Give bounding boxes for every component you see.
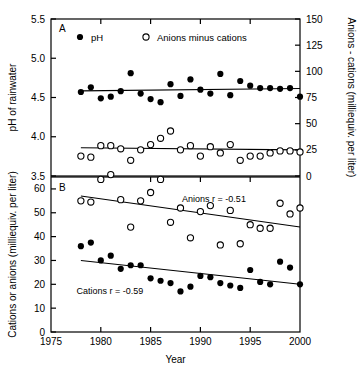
- anions-minus-cations-point: [138, 147, 144, 153]
- panel-a-y2tick-label: 0: [306, 171, 312, 182]
- panel-b-ytick-label: 30: [34, 255, 46, 266]
- cations-point: [227, 282, 233, 288]
- cations-point: [297, 281, 303, 287]
- anions-minus-cations-point: [217, 150, 223, 156]
- ph-point: [277, 86, 283, 92]
- anions-point: [148, 189, 154, 195]
- panel-a-y2tick-label: 75: [306, 92, 318, 103]
- anions-minus-cations-point: [108, 143, 114, 149]
- ph-point: [267, 85, 273, 91]
- ph-point: [88, 84, 94, 90]
- cations-point: [118, 266, 124, 272]
- anions-minus-cations-point: [128, 157, 134, 163]
- cations-point: [138, 262, 144, 268]
- anions-point: [227, 207, 233, 213]
- anions-point: [217, 242, 223, 248]
- anions-correlation-annotation: Anions r = -0.51: [182, 194, 246, 204]
- anions-point: [118, 197, 124, 203]
- ph-point: [108, 94, 114, 100]
- cations-trend-line: [81, 260, 300, 284]
- ph-point: [118, 88, 124, 94]
- anions-minus-cations-point: [257, 153, 263, 159]
- cations-point: [167, 280, 173, 286]
- panel-a-y2tick-label: 100: [306, 66, 323, 77]
- anions-minus-cations-point: [148, 142, 154, 148]
- panel-b-xtick-label: 1985: [139, 336, 162, 347]
- ph-point: [237, 78, 243, 84]
- panel-b-xtick-label: 1980: [90, 336, 113, 347]
- ph-point: [257, 85, 263, 91]
- anions-point: [187, 235, 193, 241]
- anions-minus-cations-point: [297, 149, 303, 155]
- ph-point: [177, 93, 183, 99]
- anions-minus-cations-point: [118, 146, 124, 152]
- cations-point: [277, 259, 283, 265]
- anions-minus-cations-point: [98, 143, 104, 149]
- panel-a-ytick-label: 5.5: [31, 14, 45, 25]
- anions-point: [128, 224, 134, 230]
- cations-point: [98, 257, 104, 263]
- panel-a-frame: [51, 19, 300, 176]
- cations-point: [108, 253, 114, 259]
- panel-b-ytick-label: 10: [34, 303, 46, 314]
- cations-point: [287, 265, 293, 271]
- panel-a-y2tick-label: 150: [306, 14, 323, 25]
- cations-point: [197, 273, 203, 279]
- panel-a-y2tick-label: 50: [306, 118, 318, 129]
- panel-a-ytick-label: 4.0: [31, 131, 45, 142]
- ph-point: [247, 83, 253, 89]
- anions-point: [197, 208, 203, 214]
- anions-minus-cations-point: [177, 147, 183, 153]
- anions-minus-cations-point: [267, 150, 273, 156]
- panel-b-xtick-label: 1995: [239, 336, 262, 347]
- anions-minus-cations-point: [157, 135, 163, 141]
- anions-point: [237, 241, 243, 247]
- anions-point: [88, 199, 94, 205]
- panel-a-y-axis-title: pH of rainwater: [7, 63, 18, 131]
- ph-point: [138, 90, 144, 96]
- panel-a-y2tick-label: 25: [306, 144, 318, 155]
- legend-ph-label: pH: [91, 32, 103, 43]
- ph-point: [148, 96, 154, 102]
- ph-point: [78, 89, 84, 95]
- legend-anions-label: Anions minus cations: [157, 32, 247, 43]
- ph-point: [217, 71, 223, 77]
- ph-point: [197, 87, 203, 93]
- anions-point: [277, 200, 283, 206]
- cations-point: [157, 278, 163, 284]
- cations-point: [257, 279, 263, 285]
- cations-point: [88, 239, 94, 245]
- anions-point: [257, 225, 263, 231]
- panel-b-ytick-label: 20: [34, 279, 46, 290]
- panel-b-xtick-label: 1975: [40, 336, 63, 347]
- panel-b-xtick-label: 2000: [289, 336, 312, 347]
- figure-container: 3.54.04.55.05.50255075100125150010203040…: [0, 0, 360, 383]
- anions-minus-cations-point: [207, 144, 213, 150]
- cations-point: [217, 280, 223, 286]
- anions-point: [177, 205, 183, 211]
- panel-b-xtick-label: 1990: [189, 336, 212, 347]
- ph-point: [167, 81, 173, 87]
- anions-minus-cations-point: [237, 157, 243, 163]
- panel-b-y-axis-title: Cations or anions (milliequiv. per liter…: [7, 171, 18, 338]
- ph-point: [187, 76, 193, 82]
- anions-minus-cations-point: [277, 148, 283, 154]
- panel-a-y2tick-label: 125: [306, 40, 323, 51]
- x-axis-title: Year: [165, 354, 186, 365]
- legend-anions-marker: [143, 34, 149, 40]
- anions-minus-cations-point: [247, 153, 253, 159]
- ph-point: [98, 95, 104, 101]
- cations-point: [148, 275, 154, 281]
- anions-minus-cations-point: [227, 142, 233, 148]
- scatter-chart: 3.54.04.55.05.50255075100125150010203040…: [0, 0, 360, 383]
- anions-minus-cations-point: [187, 143, 193, 149]
- panel-a-y2-axis-title: Anions - cations (milliequiv. per liter): [346, 18, 357, 178]
- anions-point: [108, 172, 114, 178]
- anions-minus-cations-point: [197, 153, 203, 159]
- cations-point: [207, 274, 213, 280]
- anions-point: [297, 205, 303, 211]
- anions-point: [78, 198, 84, 204]
- anions-point: [157, 176, 163, 182]
- cations-point: [128, 262, 134, 268]
- anions-minus-cations-point: [88, 154, 94, 160]
